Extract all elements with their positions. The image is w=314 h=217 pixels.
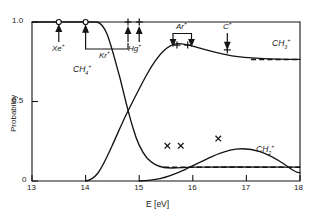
y-tick-label-1: 1.0 <box>12 17 23 25</box>
cross-markers <box>165 136 222 149</box>
annotation-label-c: C+ <box>223 22 232 31</box>
annotation-arrows-hg <box>126 28 142 42</box>
c-charge: + <box>229 21 232 26</box>
kr-charge: + <box>107 50 110 55</box>
hg-charge: + <box>138 43 141 48</box>
y-axis-title: Probability <box>10 95 18 132</box>
y-tick-label-0: 0 <box>22 176 26 184</box>
curve-ch2-plus <box>139 149 300 181</box>
x-tick-label-18: 18 <box>294 184 303 192</box>
ch4-base: CH <box>73 64 85 74</box>
marker-circle-kr <box>83 20 88 25</box>
annotation-label-hg: Hg+ <box>128 44 141 53</box>
marker-plus-hg-b <box>136 19 143 26</box>
annotation-arrow-c <box>225 33 230 49</box>
axis-frame <box>32 22 300 181</box>
ch3-charge: + <box>287 37 290 43</box>
x-axis-title: E [eV] <box>146 200 169 209</box>
curve-label-ch4-plus: CH4+ <box>73 64 91 76</box>
ch4-count: 4 <box>85 70 88 76</box>
annotation-bracket-kr <box>83 26 128 49</box>
xe-charge: + <box>62 43 65 48</box>
annotation-arrow-xe <box>56 25 61 42</box>
annotation-label-ar: Ar+ <box>176 22 187 31</box>
ch2-charge: + <box>271 143 274 149</box>
marker-circle-xe <box>56 20 61 25</box>
curve-label-ch2-plus: CH2+ <box>256 144 274 156</box>
xe-base: Xe <box>52 44 62 53</box>
ar-charge: + <box>184 21 187 26</box>
y-axis-ticks <box>32 22 38 181</box>
x-tick-label-15: 15 <box>134 184 143 192</box>
marker-cross-3 <box>216 136 222 142</box>
x-axis-ticks <box>32 175 300 181</box>
marker-cross-1 <box>165 143 171 149</box>
curve-label-ch3-plus: CH3+ <box>272 38 290 50</box>
annotation-label-xe: Xe+ <box>52 44 65 53</box>
marker-cross-2 <box>178 143 184 149</box>
ch4-charge: + <box>88 63 91 69</box>
x-tick-label-14: 14 <box>81 184 90 192</box>
ch3-count: 3 <box>284 44 287 50</box>
marker-plus-hg-a <box>125 19 132 26</box>
x-tick-label-17: 17 <box>241 184 250 192</box>
chart-figure: 1.0 0.5 0 Probability 13 14 15 16 17 18 … <box>0 0 314 217</box>
ar-base: Ar <box>176 22 184 31</box>
x-tick-label-16: 16 <box>188 184 197 192</box>
kr-base: Kr <box>99 51 107 60</box>
asymptote-lines <box>164 59 300 167</box>
ch3-base: CH <box>272 38 284 48</box>
x-tick-label-13: 13 <box>27 184 36 192</box>
hg-base: Hg <box>128 44 138 53</box>
curve-ch3-plus <box>86 44 300 181</box>
ch2-count: 2 <box>268 150 271 156</box>
ch2-base: CH <box>256 144 268 154</box>
chart-plot-area <box>0 0 314 217</box>
annotation-label-kr: Kr+ <box>99 51 110 60</box>
